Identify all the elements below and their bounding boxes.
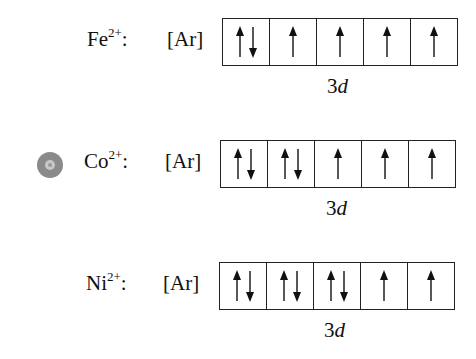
orbital-boxes xyxy=(220,140,456,188)
spin-up-arrow-icon xyxy=(280,270,288,302)
spin-up-arrow-icon xyxy=(427,270,435,302)
orbital-box xyxy=(409,141,455,187)
ion-symbol: Ni xyxy=(86,271,107,295)
spin-up-arrow-icon xyxy=(334,148,342,180)
colon: : xyxy=(122,149,128,173)
spin-up-arrow-icon xyxy=(381,148,389,180)
spin-down-arrow-icon xyxy=(340,270,348,302)
orbital-box xyxy=(220,263,267,309)
subshell-label: 3d xyxy=(324,318,345,343)
ion-charge: 2+ xyxy=(107,269,121,284)
ion-label: Co2+: xyxy=(84,149,128,174)
spin-up-arrow-icon xyxy=(281,148,289,180)
orbital-box xyxy=(268,141,315,187)
spin-down-arrow-icon xyxy=(293,270,301,302)
ion-label: Ni2+: xyxy=(86,271,127,296)
subshell-letter: d xyxy=(335,318,346,342)
colon: : xyxy=(121,271,127,295)
orbital-box xyxy=(361,263,408,309)
spin-up-arrow-icon xyxy=(327,270,335,302)
spin-down-arrow-icon xyxy=(247,148,255,180)
core-config: [Ar] xyxy=(165,149,201,174)
spin-up-arrow-icon xyxy=(233,270,241,302)
orbital-box xyxy=(315,141,362,187)
orbital-box xyxy=(314,263,361,309)
orbital-box xyxy=(267,263,314,309)
ion-symbol: Co xyxy=(84,149,109,173)
orbital-box xyxy=(408,263,454,309)
subshell-number: 3 xyxy=(326,196,337,220)
core-config: [Ar] xyxy=(163,271,199,296)
orbital-box xyxy=(362,141,409,187)
spin-up-arrow-icon xyxy=(234,148,242,180)
orbital-boxes xyxy=(219,262,455,310)
spin-down-arrow-icon xyxy=(294,148,302,180)
row-ni: Ni2+: [Ar] 3d xyxy=(0,0,476,110)
subshell-label: 3d xyxy=(326,196,347,221)
spin-down-arrow-icon xyxy=(246,270,254,302)
spin-up-arrow-icon xyxy=(428,148,436,180)
target-circle-icon[interactable] xyxy=(37,152,63,178)
subshell-letter: d xyxy=(337,196,348,220)
subshell-number: 3 xyxy=(324,318,335,342)
ion-charge: 2+ xyxy=(109,147,123,162)
orbital-box xyxy=(221,141,268,187)
spin-up-arrow-icon xyxy=(380,270,388,302)
